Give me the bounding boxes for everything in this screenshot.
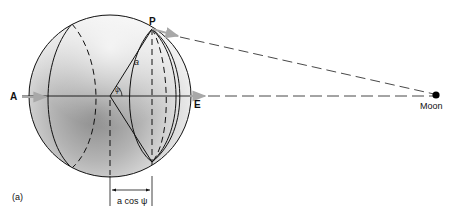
label-radius-a: a bbox=[134, 57, 139, 67]
earth-moon-tide-diagram: P A E a ψ a cos ψ Moon (a) bbox=[0, 0, 451, 220]
label-point-e: E bbox=[194, 99, 201, 110]
label-point-a: A bbox=[10, 91, 17, 102]
label-moon: Moon bbox=[420, 101, 443, 111]
panel-label: (a) bbox=[12, 192, 23, 202]
label-point-p: P bbox=[149, 16, 156, 27]
lines-to-moon bbox=[180, 37, 434, 96]
label-a-cos-psi: a cos ψ bbox=[117, 196, 147, 206]
moon-dot bbox=[432, 91, 439, 98]
label-angle-psi: ψ bbox=[115, 86, 120, 94]
